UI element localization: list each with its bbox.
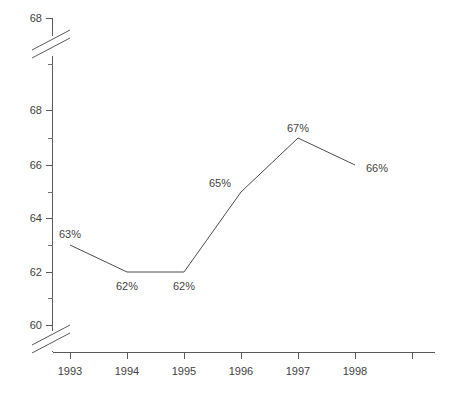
x-tick-label: 1997 bbox=[286, 365, 310, 377]
point-label: 62% bbox=[173, 280, 195, 292]
point-label: 66% bbox=[366, 162, 388, 174]
chart-canvas: 68 68 66 64 62 60 bbox=[0, 0, 455, 395]
chart-background bbox=[0, 0, 455, 395]
x-tick-label: 1996 bbox=[229, 365, 253, 377]
point-label: 65% bbox=[209, 177, 231, 189]
y-tick-label: 64 bbox=[30, 212, 42, 224]
x-tick-label: 1994 bbox=[115, 365, 139, 377]
point-label: 67% bbox=[287, 122, 309, 134]
point-label: 63% bbox=[59, 228, 81, 240]
x-tick-label: 1998 bbox=[343, 365, 367, 377]
y-tick-label: 68 bbox=[30, 12, 42, 24]
x-tick-label: 1995 bbox=[172, 365, 196, 377]
line-chart: 68 68 66 64 62 60 bbox=[0, 0, 455, 395]
y-tick-label: 68 bbox=[30, 104, 42, 116]
point-label: 62% bbox=[116, 280, 138, 292]
y-tick-label: 62 bbox=[30, 266, 42, 278]
x-tick-label: 1993 bbox=[58, 365, 82, 377]
y-tick-label: 66 bbox=[30, 159, 42, 171]
y-tick-label: 60 bbox=[30, 319, 42, 331]
